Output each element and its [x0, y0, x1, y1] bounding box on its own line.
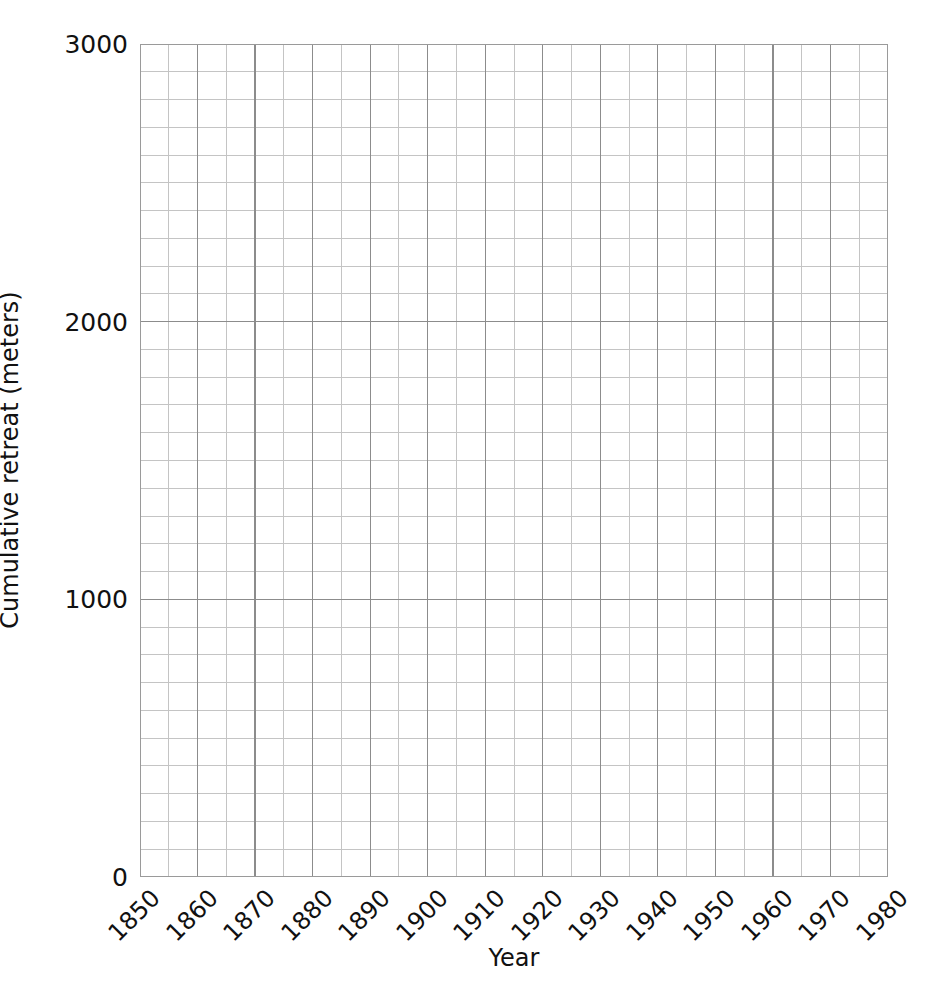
x-axis-title: Year	[140, 944, 888, 972]
x-tick-label: 1890	[333, 884, 396, 947]
x-tick-label: 1850	[103, 884, 166, 947]
y-tick-label: 0	[0, 863, 128, 892]
x-tick-label: 1930	[563, 884, 626, 947]
x-tick-label: 1860	[160, 884, 223, 947]
y-axis-title: Cumulative retreat (meters)	[0, 291, 24, 628]
x-tick-label: 1940	[621, 884, 684, 947]
y-axis-title-text: Cumulative retreat (meters)	[0, 291, 24, 628]
grid-lines	[140, 44, 888, 877]
plot-area	[140, 44, 888, 877]
y-tick-label: 1000	[0, 585, 128, 614]
x-tick-label: 1880	[275, 884, 338, 947]
x-tick-label: 1980	[851, 884, 914, 947]
x-tick-label: 1970	[793, 884, 856, 947]
y-tick-label: 3000	[0, 30, 128, 59]
x-tick-label: 1910	[448, 884, 511, 947]
x-tick-label: 1920	[506, 884, 569, 947]
chart-figure: Cumulative retreat (meters) 300020001000…	[0, 0, 937, 1000]
x-tick-label: 1950	[678, 884, 741, 947]
y-tick-label: 2000	[0, 307, 128, 336]
x-tick-label: 1870	[218, 884, 281, 947]
x-tick-label: 1960	[736, 884, 799, 947]
x-tick-label: 1900	[390, 884, 453, 947]
x-axis-title-text: Year	[489, 944, 540, 972]
